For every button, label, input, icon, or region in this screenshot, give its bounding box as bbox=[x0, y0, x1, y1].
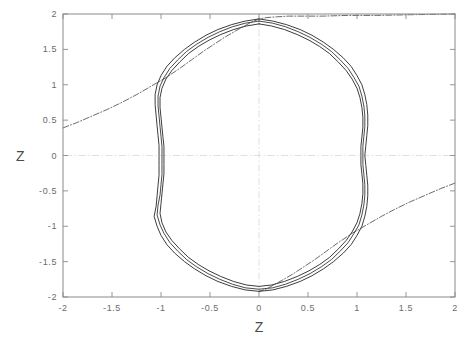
x-axis-tick-label: 1.5 bbox=[399, 303, 413, 313]
y-axis-tick-label: 1 bbox=[29, 80, 57, 90]
x-axis-tick-label: 2 bbox=[452, 303, 458, 313]
separatrix-branch-lower-right bbox=[259, 183, 455, 291]
phase-portrait-figure: -2-1.5-1-0.500.511.52 -2-1.5-1-0.500.511… bbox=[0, 0, 469, 339]
x-axis-tick-label: -1.5 bbox=[103, 303, 121, 313]
x-axis-tick-label: -2 bbox=[58, 303, 67, 313]
y-axis-tick-label: 0.5 bbox=[29, 115, 57, 125]
y-axis-tick-label: -1.5 bbox=[29, 257, 57, 267]
x-axis-tick-label: -0.5 bbox=[201, 303, 219, 313]
y-axis-tick-label: 0 bbox=[29, 151, 57, 161]
x-axis-tick-label: 0 bbox=[256, 303, 262, 313]
x-axis-tick-label: 1 bbox=[354, 303, 360, 313]
y-axis-title: Z bbox=[16, 148, 25, 164]
y-axis-tick-label: 2 bbox=[29, 9, 57, 19]
x-axis-tick-label: 0.5 bbox=[301, 303, 315, 313]
y-axis-tick-label: -0.5 bbox=[29, 186, 57, 196]
x-axis-tick-label: -1 bbox=[156, 303, 165, 313]
y-axis-tick-label: -1 bbox=[29, 221, 57, 231]
x-axis-title: Z bbox=[255, 319, 264, 335]
reference-lines-group bbox=[65, 16, 453, 295]
plot-canvas bbox=[0, 0, 469, 339]
y-axis-tick-label: -2 bbox=[29, 292, 57, 302]
y-axis-tick-label: 1.5 bbox=[29, 44, 57, 54]
